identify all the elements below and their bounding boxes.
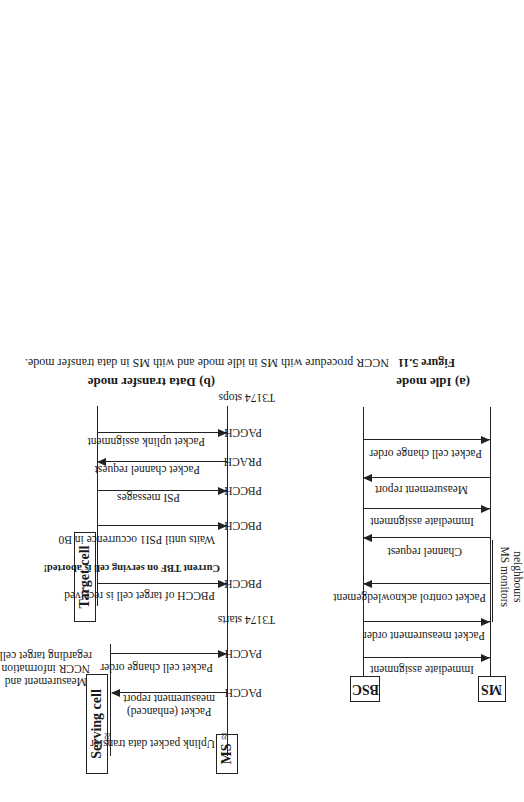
msg-label: PBCCH of target cell is received [64,589,215,602]
break-icon: ≈ [217,732,233,740]
panel-b-title: (b) Data transfer mode [88,374,215,390]
msg-label: Channel request [388,545,462,558]
arrow-down-icon [481,505,490,513]
figure-caption: Figure 5.11 NCCR procedure with MS in id… [25,355,455,370]
arrow-up-icon [111,689,120,697]
channel-label: PAGCH [224,426,262,439]
msg-label: Packet cell change order [369,447,482,460]
figure-caption-text: NCCR procedure with MS in idle mode and … [25,356,389,370]
tbf-aborted-note: Current TBF on serving cell is aborted! [43,562,220,574]
panel-a-title: (a) Idle mode [396,374,470,390]
ms-lifeline-a [490,407,491,677]
msg-packet-uplink-assignment [97,432,227,433]
arrow-up-icon [363,534,372,542]
channel-label: PRACH [224,455,262,468]
channel-label: PBCCH [224,577,262,590]
arrow-down-icon [481,654,490,662]
msg-immediate-assignment-2 [363,508,490,509]
channel-label: PBCCH [224,519,262,532]
msg-packet-cell-change-order [110,653,227,654]
msg-label: Waits until PSI1 occurrence in B0 [58,533,215,546]
msg-immediate-assignment-1 [363,657,490,658]
msg-label: Packet measurement order [363,629,485,642]
monitors-note: neighbours MS monitors [498,547,524,607]
msg-label: Packet channel request [95,463,200,476]
channel-label: PACCH [225,647,262,660]
ms-box-a: MS [478,676,506,702]
msg-label: PSI messages [117,491,180,504]
bsc-box: BSC [350,676,380,702]
arrow-up-icon [363,580,372,588]
monitors-range-arrow [492,540,493,622]
msg-channel-request [363,537,490,538]
msg-label: Packet uplink assignment [87,435,205,448]
msg-label: Immediate assignment [370,515,474,528]
channel-label: PBCCH [224,484,262,497]
msg-label: Packet control acknowledgement [333,591,486,604]
msg-measurement-report [363,477,490,478]
msg-waits-psi1 [97,525,227,526]
serving-note: Measurement and NCCR information regardi… [0,648,92,688]
msg-label: Immediate assignment [370,663,474,676]
arrow-down-icon [481,436,490,444]
msg-packet-control-ack [363,583,490,584]
figure-number: Figure 5.11 [398,356,455,370]
msg-label: Packet (enhanced) measurement report [123,692,215,718]
arrow-up-icon [363,474,372,482]
msg-packet-measurement-order [363,621,490,622]
arrow-down-icon [481,618,490,626]
uplink-note: Uplink packet data transfer [90,737,215,750]
timer-stop: T3174 stops [218,391,275,404]
msg-packet-cell-change-order [363,439,490,440]
channel-label: PACCH [225,686,262,699]
msg-label: Measurement report [375,483,468,496]
serving-cell-box: Serving cell [86,674,108,774]
msg-pbcch-received [97,583,227,584]
msg-label: Packet cell change order [100,661,213,674]
timer-start: T3174 starts [218,613,275,626]
